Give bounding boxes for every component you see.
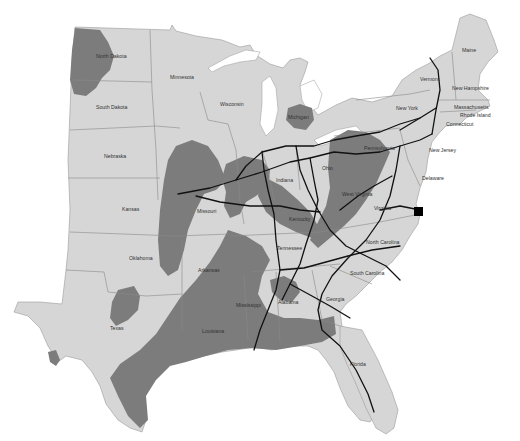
map-container: North Dakota Minnesota Wisconsin Michiga…: [0, 0, 520, 441]
location-marker-square: [414, 207, 423, 216]
label-connecticut: Connecticut: [446, 121, 474, 127]
label-south-dakota: South Dakota: [96, 104, 128, 110]
label-maine: Maine: [462, 47, 476, 53]
label-new-jersey: New Jersey: [429, 147, 457, 153]
label-arkansas: Arkansas: [198, 267, 220, 273]
label-kansas: Kansas: [122, 206, 140, 212]
label-north-dakota: North Dakota: [96, 53, 127, 59]
label-louisiana: Louisiana: [202, 328, 224, 334]
label-new-york: New York: [396, 105, 418, 111]
label-west-virginia: West Virginia: [342, 191, 372, 197]
label-pennsylvania: Pennsylvania: [364, 145, 395, 151]
label-texas: Texas: [110, 325, 124, 331]
label-ohio: Ohio: [322, 165, 333, 171]
label-wisconsin: Wisconsin: [220, 101, 244, 107]
label-delaware: Delaware: [422, 175, 444, 181]
label-tennessee: Tennessee: [277, 245, 302, 251]
label-north-carolina: North Carolina: [366, 239, 400, 245]
label-indiana: Indiana: [276, 177, 293, 183]
label-missouri: Missouri: [197, 208, 216, 214]
label-oklahoma: Oklahoma: [129, 255, 153, 261]
label-new-hampshire: New Hampshire: [452, 85, 489, 91]
label-georgia: Georgia: [326, 296, 345, 302]
label-michigan: Michigan: [288, 114, 309, 120]
label-mississippi: Mississippi: [236, 302, 261, 308]
label-kentucky: Kentucky: [289, 216, 311, 222]
label-florida: Florida: [350, 361, 366, 367]
eastern-us-map: North Dakota Minnesota Wisconsin Michiga…: [0, 0, 520, 441]
label-vermont: Vermont: [420, 76, 440, 82]
label-rhode-island: Rhode Island: [460, 112, 491, 118]
label-south-carolina: South Carolina: [350, 270, 384, 276]
label-massachusetts: Massachusetts: [454, 104, 489, 110]
label-alabama: Alabama: [278, 299, 299, 305]
label-virginia: Virginia: [374, 205, 391, 211]
label-nebraska: Nebraska: [104, 153, 126, 159]
label-minnesota: Minnesota: [170, 74, 194, 80]
